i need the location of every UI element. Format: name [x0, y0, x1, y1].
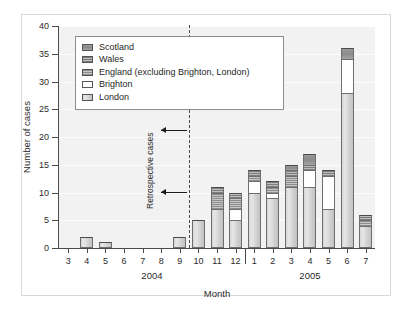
- y-axis-tick: [52, 220, 59, 221]
- bar-segment[interactable]: [211, 193, 224, 210]
- bar-segment[interactable]: [173, 237, 186, 248]
- legend-item[interactable]: Scotland: [82, 41, 277, 54]
- bar-segment[interactable]: [248, 176, 261, 182]
- bar-segment[interactable]: [229, 193, 242, 199]
- y-axis-tick: [52, 193, 59, 194]
- bar-segment[interactable]: [341, 59, 354, 92]
- x-axis-tick-label: 2: [270, 256, 275, 266]
- bar-segment[interactable]: [359, 215, 372, 221]
- bar-segment[interactable]: [99, 242, 112, 248]
- bar-segment[interactable]: [80, 237, 93, 248]
- bar-stack[interactable]: [248, 170, 261, 248]
- x-axis-tick-label: 7: [363, 256, 368, 266]
- legend-item[interactable]: London: [82, 91, 277, 104]
- y-axis-tick-label: 35: [39, 49, 49, 59]
- bar-segment[interactable]: [229, 209, 242, 220]
- x-axis-tick-label: 3: [289, 256, 294, 266]
- x-axis-tick: [347, 248, 348, 253]
- bar-segment[interactable]: [248, 181, 261, 192]
- bar-segment[interactable]: [285, 176, 298, 187]
- bar-stack[interactable]: [285, 165, 298, 248]
- x-axis-tick: [236, 248, 237, 253]
- bar-stack[interactable]: [192, 220, 205, 248]
- bar-stack[interactable]: [359, 215, 372, 248]
- bar-segment[interactable]: [285, 170, 298, 176]
- bar-segment[interactable]: [266, 193, 279, 199]
- gridline: [59, 26, 375, 27]
- y-axis-title: Number of cases: [21, 101, 32, 173]
- london-swatch: [82, 94, 93, 101]
- y-axis-tick-label: 30: [39, 77, 49, 87]
- bar-segment[interactable]: [229, 220, 242, 248]
- brighton-swatch: [82, 81, 93, 88]
- x-axis-tick-label: 6: [122, 256, 127, 266]
- x-axis-tick: [254, 248, 255, 253]
- annotation-arrow-icon: [161, 192, 187, 193]
- bar-stack[interactable]: [322, 170, 335, 248]
- x-axis-tick-label: 11: [212, 256, 221, 266]
- bar-segment[interactable]: [303, 187, 316, 248]
- bar-segment[interactable]: [248, 193, 261, 249]
- bar-segment[interactable]: [303, 165, 316, 171]
- bar-segment[interactable]: [229, 198, 242, 209]
- x-axis-tick: [180, 248, 181, 253]
- bar-segment[interactable]: [211, 209, 224, 248]
- legend-item-label: Wales: [99, 55, 124, 64]
- bar-stack[interactable]: [211, 187, 224, 248]
- bar-stack[interactable]: [99, 242, 112, 248]
- x-axis-tick-label: 4: [84, 256, 89, 266]
- x-axis-tick: [273, 248, 274, 253]
- bar-segment[interactable]: [248, 170, 261, 176]
- bar-segment[interactable]: [285, 187, 298, 248]
- legend-item-label: England (excluding Brighton, London): [99, 68, 250, 77]
- bar-stack[interactable]: [80, 237, 93, 248]
- bar-segment[interactable]: [341, 93, 354, 248]
- x-axis-title: Month: [204, 288, 230, 299]
- x-axis-tick-label: 1: [252, 256, 257, 266]
- bar-segment[interactable]: [211, 187, 224, 193]
- x-axis-tick: [105, 248, 106, 253]
- legend-item[interactable]: Wales: [82, 54, 277, 67]
- bar-stack[interactable]: [341, 48, 354, 248]
- bar-segment[interactable]: [341, 48, 354, 59]
- england-swatch: [82, 69, 93, 76]
- bar-segment[interactable]: [192, 220, 205, 248]
- year-group-label: 2004: [141, 270, 162, 281]
- legend-item[interactable]: England (excluding Brighton, London): [82, 66, 277, 79]
- y-axis-tick-label: 40: [39, 21, 49, 31]
- bar-segment[interactable]: [285, 165, 298, 171]
- bar-segment[interactable]: [322, 209, 335, 248]
- bar-segment[interactable]: [322, 176, 335, 209]
- bar-stack[interactable]: [303, 154, 316, 248]
- bar-segment[interactable]: [266, 198, 279, 248]
- bar-segment[interactable]: [266, 187, 279, 193]
- bar-stack[interactable]: [266, 181, 279, 248]
- x-axis-tick-label: 9: [177, 256, 182, 266]
- y-axis-tick: [52, 137, 59, 138]
- x-axis-tick: [198, 248, 199, 253]
- x-axis-tick-label: 8: [159, 256, 164, 266]
- legend-item[interactable]: Brighton: [82, 79, 277, 92]
- x-axis-tick-label: 7: [140, 256, 145, 266]
- y-axis-tick: [52, 26, 59, 27]
- bar-stack[interactable]: [229, 193, 242, 249]
- year-separator: [245, 248, 246, 264]
- annotation-arrow-icon: [161, 130, 187, 131]
- bar-segment[interactable]: [303, 170, 316, 187]
- y-axis-tick: [52, 165, 59, 166]
- scotland-swatch: [82, 44, 93, 51]
- chart-figure: Number of cases Month 051015202530354034…: [0, 0, 413, 314]
- bar-segment[interactable]: [359, 220, 372, 226]
- retrospective-cases-label: Retrospective cases: [145, 132, 155, 209]
- bar-segment[interactable]: [266, 181, 279, 187]
- y-axis-tick-label: 5: [44, 215, 49, 225]
- bar-segment[interactable]: [359, 226, 372, 248]
- x-axis-tick: [124, 248, 125, 253]
- bar-segment[interactable]: [322, 170, 335, 176]
- gridline: [59, 165, 375, 166]
- bar-stack[interactable]: [173, 237, 186, 248]
- bar-segment[interactable]: [303, 154, 316, 165]
- y-axis-tick: [52, 54, 59, 55]
- x-axis-tick-label: 5: [103, 256, 108, 266]
- chart-legend: ScotlandWalesEngland (excluding Brighton…: [75, 36, 284, 110]
